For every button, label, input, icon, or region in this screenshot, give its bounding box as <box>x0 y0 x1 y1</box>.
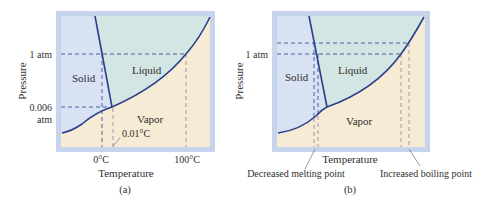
panel-b-vapor-label: Vapor <box>346 115 373 127</box>
panel-b-liquid-label: Liquid <box>338 64 368 76</box>
panel-a-y-axis-label: Pressure <box>16 62 28 99</box>
panel-a-x-axis-label: Temperature <box>98 167 154 179</box>
panel-a-solid-label: Solid <box>72 72 96 84</box>
panel-b-solid-label: Solid <box>285 71 309 83</box>
panel-a: Solid Liquid Vapor 0.01°C 1 atm 0.006 at… <box>16 11 215 196</box>
panel-b-y-axis-label: Pressure <box>233 62 245 99</box>
panel-a-vapor-label: Vapor <box>137 113 164 125</box>
panel-b-melting-annotation: Decreased melting point <box>247 168 345 179</box>
panel-b: Solid Liquid Vapor 1 atm Pressure Temper… <box>233 11 472 196</box>
panel-b-boiling-annotation: Increased boiling point <box>380 168 472 179</box>
panel-a-triple-temp-label: 0.01°C <box>122 128 150 139</box>
panel-a-0c-tick: 0°C <box>93 154 109 165</box>
panel-b-1atm-tick: 1 atm <box>246 49 269 60</box>
panel-a-100c-tick: 100°C <box>174 154 200 165</box>
phase-diagrams: Solid Liquid Vapor 0.01°C 1 atm 0.006 at… <box>0 0 492 205</box>
panel-a-1atm-tick: 1 atm <box>30 49 53 60</box>
panel-b-caption: (b) <box>344 184 357 196</box>
panel-a-liquid-label: Liquid <box>132 64 162 76</box>
panel-a-atm-tick: atm <box>37 114 52 125</box>
panel-a-0006-tick: 0.006 <box>30 102 53 113</box>
panel-a-caption: (a) <box>119 184 131 196</box>
panel-b-x-axis-label: Temperature <box>322 153 378 165</box>
